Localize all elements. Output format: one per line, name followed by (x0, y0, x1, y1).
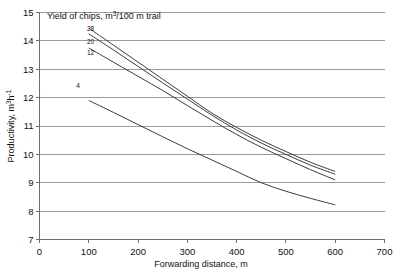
y-axis-title: Productivity, m3h-1 (5, 89, 16, 162)
y-tick-label-15: 15 (23, 7, 34, 18)
x-tick-label-200: 200 (130, 246, 146, 257)
x-tick-label-500: 500 (278, 246, 294, 257)
x-axis-title: Forwarding distance, m (154, 259, 248, 269)
y-tick-label-13: 13 (23, 64, 34, 75)
chart-container: 789101112131415 0100200300400500600700 2… (0, 0, 416, 276)
y-tick-label-9: 9 (28, 177, 33, 188)
x-tick-label-600: 600 (327, 246, 343, 257)
legend-title: Yield of chips, m3/100 m trail (47, 10, 161, 21)
y-tick-label-10: 10 (23, 149, 34, 160)
chart-background (0, 0, 416, 276)
y-tick-label-11: 11 (24, 120, 34, 131)
y-tick-label-7: 7 (28, 234, 33, 245)
productivity-vs-forwarding-distance-chart: 789101112131415 0100200300400500600700 2… (0, 0, 416, 276)
y-tick-label-14: 14 (23, 35, 34, 46)
x-tick-label-400: 400 (229, 246, 245, 257)
series-label-28: 28 (87, 25, 95, 32)
x-tick-label-300: 300 (179, 246, 195, 257)
x-tick-label-0: 0 (37, 246, 42, 257)
series-label-12: 12 (87, 49, 95, 56)
x-tick-label-700: 700 (377, 246, 393, 257)
y-tick-label-8: 8 (28, 206, 33, 217)
x-tick-label-100: 100 (81, 246, 97, 257)
y-tick-label-12: 12 (23, 92, 34, 103)
series-label-20: 20 (87, 38, 95, 45)
series-label-4: 4 (76, 82, 80, 89)
